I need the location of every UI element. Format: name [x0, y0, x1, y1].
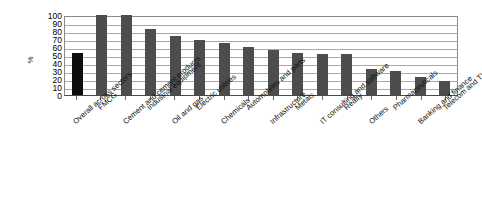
bar-slot — [237, 17, 262, 95]
y-axis-title: % — [23, 53, 39, 67]
bar[interactable] — [72, 53, 83, 95]
x-axis-label: Banking and finance — [416, 119, 422, 126]
tick-mark — [322, 96, 323, 100]
bar[interactable] — [317, 54, 328, 95]
tick-mark — [273, 96, 274, 100]
y-tick-label: 0 — [40, 92, 62, 101]
tick-mark — [76, 96, 77, 100]
x-axis-label: Others — [367, 119, 373, 126]
bar-slot — [335, 17, 360, 95]
bar-slot — [139, 17, 164, 95]
tick-mark — [224, 96, 225, 100]
bar-slot — [433, 17, 458, 95]
tick-mark — [174, 96, 175, 100]
bar-slot — [384, 17, 409, 95]
bar-slot — [310, 17, 335, 95]
bar[interactable] — [341, 54, 352, 95]
x-axis-label: Overall across sectors — [71, 119, 77, 126]
tick-slot — [64, 96, 89, 100]
tick-mark — [421, 96, 422, 100]
x-axis-label: Pharmaceuticals — [391, 105, 397, 112]
bar[interactable] — [243, 47, 254, 95]
x-axis-label: Infrastructure — [268, 119, 274, 126]
tick-mark — [371, 96, 372, 100]
bar[interactable] — [145, 29, 156, 95]
x-axis-label: Chemicals — [219, 119, 225, 126]
bar-slot — [286, 17, 311, 95]
bar[interactable] — [96, 15, 107, 95]
bar-slot — [188, 17, 213, 95]
bar[interactable] — [390, 71, 401, 95]
y-axis-tick-labels: 1009080706050403020100 — [40, 11, 62, 101]
tick-mark — [125, 96, 126, 100]
x-axis-label: Cement and cement products — [121, 119, 127, 126]
bar-slot — [65, 17, 90, 95]
x-axis-label: IT consulting and software — [318, 119, 324, 126]
bar-chart: % 1009080706050403020100 Overall across … — [0, 0, 482, 202]
x-axis-label: Oil and gas — [170, 119, 176, 126]
